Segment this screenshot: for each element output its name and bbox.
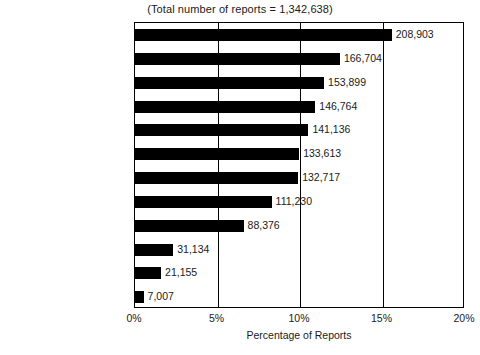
value-label: 132,717 [297, 171, 340, 183]
bar-row [135, 214, 463, 238]
bar-row [135, 95, 463, 119]
value-label: 21,155 [160, 266, 197, 278]
chart-title: (Total number of reports = 1,342,638) [0, 3, 480, 15]
bar [135, 148, 299, 160]
bar [135, 220, 244, 232]
bar-row [135, 285, 463, 309]
bar-row [135, 71, 463, 95]
bar [135, 244, 173, 256]
value-label: 111,230 [271, 195, 312, 207]
bar [135, 29, 392, 41]
bar-row [135, 47, 463, 71]
x-axis-tick: 10% [288, 312, 309, 324]
x-axis-tick: 15% [371, 312, 392, 324]
bar [135, 77, 324, 89]
plot-area [134, 22, 464, 308]
bar [135, 124, 308, 136]
bar [135, 172, 298, 184]
x-axis-tick: 0% [126, 312, 141, 324]
bar-chart: (Total number of reports = 1,342,638) Pe… [0, 0, 480, 355]
bar [135, 53, 340, 65]
bar [135, 196, 272, 208]
value-label: 146,764 [314, 100, 357, 112]
value-label: 166,704 [339, 52, 382, 64]
value-label: 31,134 [172, 243, 209, 255]
value-label: 208,903 [391, 28, 434, 40]
bar-row [135, 118, 463, 142]
bar [135, 267, 161, 279]
value-label: 88,376 [243, 219, 280, 231]
value-label: 7,007 [143, 290, 174, 302]
value-label: 141,136 [307, 123, 350, 135]
x-axis-tick: 5% [209, 312, 224, 324]
value-label: 133,613 [298, 147, 341, 159]
value-label: 153,899 [323, 76, 366, 88]
bar [135, 101, 315, 113]
x-axis-label: Percentage of Reports [134, 329, 464, 341]
x-axis-tick: 20% [453, 312, 474, 324]
